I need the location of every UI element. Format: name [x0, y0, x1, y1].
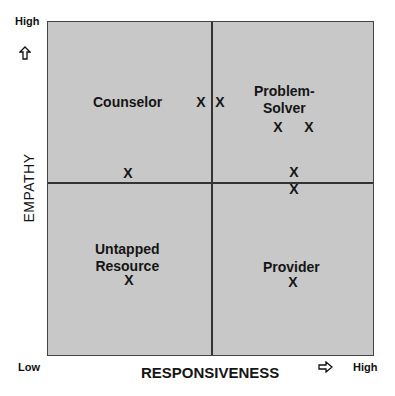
y-axis-high-label: High — [15, 15, 39, 27]
data-point-marker: X — [196, 95, 205, 109]
x-axis-high-label: High — [353, 361, 377, 373]
x-axis-low-label: Low — [18, 361, 40, 373]
data-point-marker: X — [289, 182, 298, 196]
x-axis-title: RESPONSIVENESS — [141, 364, 279, 381]
problem-solver-line1: Problem- — [254, 83, 315, 100]
data-point-marker: X — [273, 120, 282, 134]
right-arrow-icon — [318, 361, 334, 373]
data-point-marker: X — [124, 273, 133, 287]
y-axis-title: EMPATHY — [21, 153, 37, 222]
quadrant-grid: Counselor Problem- Solver Untapped Resou… — [47, 21, 374, 356]
data-point-marker: X — [288, 275, 297, 289]
up-arrow-icon — [19, 46, 31, 60]
vertical-divider — [211, 22, 213, 355]
quadrant-label-problem-solver: Problem- Solver — [254, 83, 315, 117]
data-point-marker: X — [304, 120, 313, 134]
data-point-marker: X — [289, 165, 298, 179]
data-point-marker: X — [215, 95, 224, 109]
quadrant-label-untapped-resource: Untapped Resource — [95, 241, 160, 275]
data-point-marker: X — [123, 166, 132, 180]
untapped-resource-line1: Untapped — [95, 241, 160, 258]
horizontal-divider — [48, 182, 373, 184]
problem-solver-line2: Solver — [254, 100, 315, 117]
quadrant-label-counselor: Counselor — [93, 94, 162, 111]
